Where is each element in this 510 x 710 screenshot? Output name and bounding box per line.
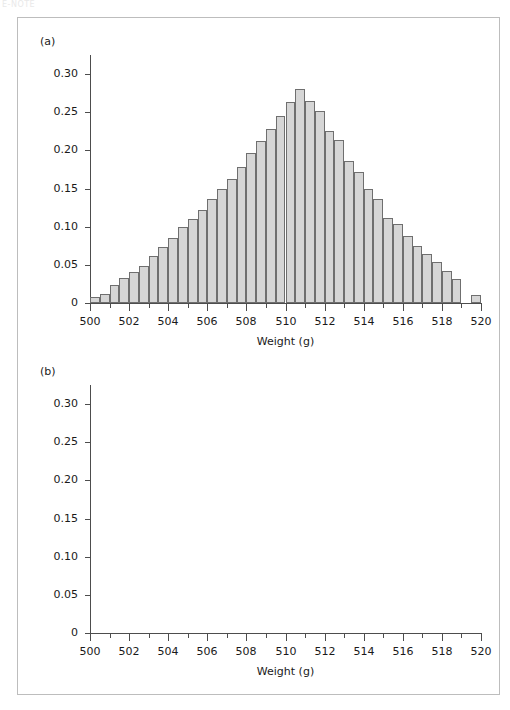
x-axis-tick-label: 500 <box>70 645 110 658</box>
x-axis-tick-label: 510 <box>266 645 306 658</box>
y-axis-tick-label: 0.10 <box>34 220 78 233</box>
x-axis-major-tick <box>129 304 130 311</box>
y-axis-tick-label: 0.20 <box>34 473 78 486</box>
x-axis-minor-tick <box>110 304 111 308</box>
x-axis-minor-tick <box>188 304 189 308</box>
panel-b-label: (b) <box>40 365 56 378</box>
x-axis-major-tick <box>481 304 482 311</box>
y-axis-tick <box>85 112 90 113</box>
x-axis-major-tick <box>246 304 247 311</box>
figure-frame: (a) 0.300.250.200.150.100.05050050250450… <box>17 17 500 695</box>
panel-a-label: (a) <box>40 35 55 48</box>
histogram-bar <box>207 199 217 303</box>
histogram-bar <box>315 111 325 303</box>
y-axis-tick-label: 0.10 <box>34 550 78 563</box>
y-axis-tick-label: 0.15 <box>34 182 78 195</box>
x-axis-major-tick <box>207 304 208 311</box>
y-axis-tick <box>85 595 90 596</box>
x-axis-major-tick <box>207 634 208 641</box>
x-axis-tick-label: 514 <box>344 645 384 658</box>
histogram-bar <box>471 295 481 303</box>
histogram-bar <box>129 272 139 303</box>
histogram-bar <box>403 236 413 303</box>
x-axis-minor-tick <box>461 634 462 638</box>
x-axis-minor-tick <box>383 634 384 638</box>
x-axis-tick-label: 520 <box>461 645 501 658</box>
histogram-bar <box>305 101 315 303</box>
panel-b: (b) 0.300.250.200.150.100.05050050250450… <box>18 361 499 691</box>
x-axis-major-tick <box>286 304 287 311</box>
histogram-bar <box>452 279 462 303</box>
histogram-bar <box>188 219 198 303</box>
x-axis-tick-label: 504 <box>148 645 188 658</box>
x-axis-tick-label: 502 <box>109 645 149 658</box>
histogram-bar <box>217 189 227 303</box>
histogram-bar <box>413 246 423 303</box>
x-axis-minor-tick <box>422 634 423 638</box>
histogram-bar <box>344 161 354 303</box>
y-axis-line <box>90 55 91 304</box>
x-axis-major-tick <box>286 634 287 641</box>
x-axis-minor-tick <box>227 304 228 308</box>
x-axis-tick-label: 510 <box>266 315 306 328</box>
x-axis-minor-tick <box>305 634 306 638</box>
y-axis-tick <box>85 189 90 190</box>
y-axis-tick <box>85 265 90 266</box>
y-axis-tick-label: 0.15 <box>34 512 78 525</box>
panel-b-xlabel: Weight (g) <box>70 665 501 678</box>
x-axis-tick-label: 504 <box>148 315 188 328</box>
y-axis-tick-label: 0 <box>34 296 78 309</box>
y-axis-tick <box>85 74 90 75</box>
x-axis-tick-label: 512 <box>305 645 345 658</box>
y-axis-tick-label: 0.05 <box>34 588 78 601</box>
x-axis-minor-tick <box>266 304 267 308</box>
page-header-text: E-NOTE <box>2 0 122 12</box>
histogram-bar <box>422 254 432 303</box>
x-axis-major-tick <box>403 634 404 641</box>
histogram-bar <box>334 140 344 303</box>
x-axis-major-tick <box>325 304 326 311</box>
x-axis-major-tick <box>403 304 404 311</box>
histogram-bar <box>383 218 393 303</box>
x-axis-minor-tick <box>305 304 306 308</box>
x-axis-major-tick <box>364 304 365 311</box>
x-axis-minor-tick <box>110 634 111 638</box>
histogram-bar <box>139 266 149 303</box>
y-axis-tick <box>85 480 90 481</box>
y-axis-line <box>90 385 91 634</box>
y-axis-tick <box>85 227 90 228</box>
x-axis-minor-tick <box>383 304 384 308</box>
histogram-bar <box>237 167 247 303</box>
histogram-bar <box>198 210 208 303</box>
x-axis-tick-label: 516 <box>383 645 423 658</box>
x-axis-major-tick <box>168 304 169 311</box>
y-axis-tick <box>85 442 90 443</box>
histogram-bar <box>100 294 110 303</box>
x-axis-minor-tick <box>149 304 150 308</box>
x-axis-tick-label: 514 <box>344 315 384 328</box>
x-axis-major-tick <box>246 634 247 641</box>
x-axis-major-tick <box>442 634 443 641</box>
histogram-bar <box>256 141 266 303</box>
y-axis-tick <box>85 150 90 151</box>
x-axis-minor-tick <box>266 634 267 638</box>
histogram-bar <box>158 247 168 303</box>
x-axis-major-tick <box>325 634 326 641</box>
x-axis-major-tick <box>442 304 443 311</box>
x-axis-major-tick <box>168 634 169 641</box>
histogram-bar <box>246 153 256 303</box>
x-axis-tick-label: 516 <box>383 315 423 328</box>
x-axis-tick-label: 512 <box>305 315 345 328</box>
x-axis-minor-tick <box>149 634 150 638</box>
x-axis-tick-label: 506 <box>187 645 227 658</box>
histogram-bar <box>119 278 129 303</box>
histogram-bar <box>110 285 120 303</box>
histogram-bar <box>276 116 286 303</box>
histogram-bar <box>442 271 452 303</box>
x-axis-major-tick <box>481 634 482 641</box>
x-axis-tick-label: 500 <box>70 315 110 328</box>
histogram-bar <box>149 256 159 303</box>
x-axis-tick-label: 506 <box>187 315 227 328</box>
x-axis-minor-tick <box>188 634 189 638</box>
x-axis-major-tick <box>129 634 130 641</box>
